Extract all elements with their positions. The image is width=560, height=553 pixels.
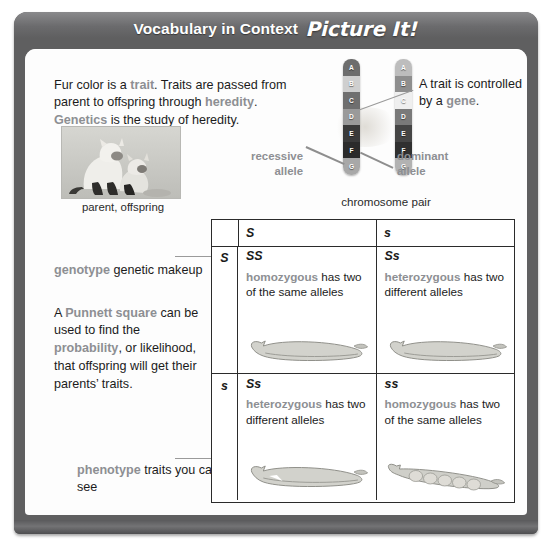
punnett-cell-genotype: Ss	[246, 378, 368, 392]
vocab-term-heredity: heredity	[205, 95, 254, 109]
recessive-allele-label-line2: allele	[223, 164, 303, 179]
vocab-term-phenotype: phenotype	[77, 463, 141, 477]
vocab-term-punnett-square: Punnett square	[65, 306, 157, 320]
punnett-row-1: s Ss heterozygous has two different alle…	[212, 373, 514, 501]
punnett-cell-genotype: Ss	[385, 250, 507, 264]
chromosome-right-band-d: D	[395, 109, 412, 126]
punnett-square-note: A Punnett square can be used to find the…	[54, 305, 204, 394]
punnett-cell-description: homozygous has two of the same alleles	[385, 396, 507, 427]
content-card: Fur color is a trait. Traits are passed …	[25, 49, 527, 515]
punnett-square-table: S s S SS homozygous has two of the same …	[211, 219, 515, 503]
dominant-allele-label-line2: allele	[397, 164, 487, 179]
chromosome-left-band-g: G	[343, 158, 360, 175]
chromosome-right-band-a: A	[395, 59, 412, 76]
smooth-pea-pod-icon	[244, 454, 370, 496]
punnett-row-0: S SS homozygous has two of the same alle…	[212, 246, 514, 373]
punnett-column-header-1: s	[376, 220, 514, 246]
chromosome-left-band-b: B	[343, 76, 360, 93]
wrinkled-pea-pod-icon	[383, 454, 509, 496]
dominant-allele-label-line1: dominant	[397, 149, 487, 164]
punnett-note-part-1: A	[54, 306, 65, 320]
banner: Vocabulary in Context Picture It!	[14, 12, 538, 45]
banner-kicker: Picture It!	[306, 17, 419, 41]
intro-paragraph: Fur color is a trait. Traits are passed …	[54, 77, 312, 131]
punnett-cell-genotype: SS	[246, 250, 368, 264]
cat-parent-offspring-photo	[61, 126, 181, 199]
punnett-row-header-0: S	[212, 246, 238, 373]
chromosome-left-band-c: C	[343, 92, 360, 109]
smooth-pea-pod-icon	[383, 327, 509, 369]
genotype-note-rest: genetic makeup	[110, 263, 202, 277]
vocab-term-genotype: genotype	[54, 263, 110, 277]
smooth-pea-pod-icon	[244, 327, 370, 369]
chromosome-left-band-a: A	[343, 59, 360, 76]
punnett-cell-genotype: ss	[385, 378, 507, 392]
punnett-cell-Ss-top: Ss heterozygous has two different allele…	[376, 246, 515, 373]
punnett-column-header-0: S	[239, 220, 376, 246]
punnett-body: S SS homozygous has two of the same alle…	[212, 246, 514, 500]
chromosome-right-band-b: B	[395, 76, 412, 93]
punnett-cell-description: homozygous has two of the same alleles	[246, 269, 368, 300]
vocab-term-homozygous: homozygous	[246, 270, 318, 283]
textbook-page: Vocabulary in Context Picture It! Fur co…	[0, 0, 560, 553]
punnett-cell-Ss-bottom: Ss heterozygous has two different allele…	[238, 374, 376, 501]
chromosome-right-band-e: E	[395, 125, 412, 142]
gene-note: A trait is controlled by a gene.	[419, 76, 527, 112]
chromosome-pair-caption: chromosome pair	[321, 195, 451, 208]
punnett-corner-cell	[212, 220, 239, 246]
gene-note-part-2: .	[476, 94, 480, 108]
vocab-term-probability: probability	[54, 341, 118, 355]
genotype-note: genotype genetic makeup	[54, 262, 204, 280]
vocab-term-heterozygous: heterozygous	[246, 397, 322, 410]
recessive-allele-label-line1: recessive	[223, 149, 303, 164]
dominant-allele-label: dominant allele	[397, 149, 487, 179]
intro-part-1: Fur color is a	[54, 78, 130, 92]
chromosome-left: ABCDEFG	[343, 59, 360, 175]
photo-caption: parent, offspring	[61, 201, 185, 213]
frame-bottom-edge	[14, 520, 538, 534]
vocab-term-heterozygous: heterozygous	[385, 270, 461, 283]
punnett-column-header-row: S s	[212, 220, 514, 247]
vocab-term-gene: gene	[446, 94, 475, 108]
banner-title: Vocabulary in Context	[133, 20, 298, 38]
chromosome-left-band-e: E	[343, 125, 360, 142]
punnett-cell-SS: SS homozygous has two of the same allele…	[238, 246, 376, 373]
punnett-cell-ss: ss homozygous has two of the same allele…	[376, 374, 515, 501]
phenotype-note: phenotype traits you can see	[77, 462, 227, 498]
intro-part-3: .	[254, 95, 258, 109]
punnett-cell-description: heterozygous has two different alleles	[385, 269, 507, 300]
vocab-term-homozygous: homozygous	[385, 397, 457, 410]
recessive-allele-label: recessive allele	[223, 149, 303, 179]
punnett-row-header-1: s	[212, 374, 238, 501]
vocab-term-trait: trait	[130, 78, 154, 92]
chromosome-left-band-f: F	[343, 142, 360, 159]
punnett-cell-description: heterozygous has two different alleles	[246, 396, 368, 427]
